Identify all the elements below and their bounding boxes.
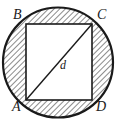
vertex-label-C: C bbox=[97, 8, 106, 22]
vertex-label-A: A bbox=[12, 100, 21, 114]
diagonal-length-label: d bbox=[60, 59, 66, 71]
vertex-label-D: D bbox=[96, 100, 106, 114]
geometry-figure: B C A D d bbox=[0, 0, 118, 124]
vertex-label-B: B bbox=[13, 8, 22, 22]
